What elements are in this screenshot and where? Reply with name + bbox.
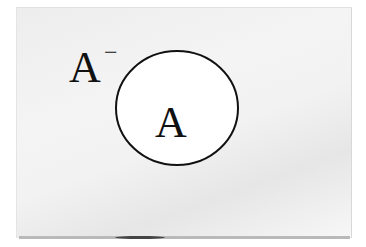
diagram-canvas: A − A (0, 0, 366, 247)
complement-label: A (69, 43, 101, 92)
complement-superscript: − (104, 39, 118, 65)
set-a-label: A (155, 98, 187, 147)
venn-diagram: A − A (0, 0, 366, 247)
